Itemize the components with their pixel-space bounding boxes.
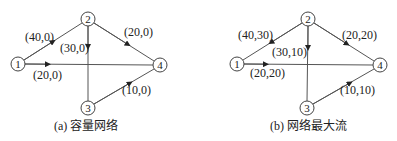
node-b-2-label: 2 [301,12,315,26]
edge-b-3-4-label: (10,10) [340,84,375,96]
edge-b-2-4-label: (20,20) [342,29,377,41]
node-a-3-label: 3 [81,101,95,115]
edge-a-1-2-label: (40,0) [25,31,54,43]
node-b-4-label: 4 [373,58,387,72]
edge-a-1-4-label: (20,0) [33,69,62,81]
node-a-2-label: 2 [81,12,95,26]
edge-a-3-4-label: (10,0) [122,84,151,96]
node-a-1-label: 1 [11,57,25,71]
node-a-4-label: 4 [153,58,167,72]
edge-b-1-2-arrow [271,23,302,43]
edge-b-1-4-label: (20,20) [250,67,285,79]
edge-a-2-4-arrow [94,23,128,45]
caption-b: (b) 网络最大流 [270,119,347,133]
node-b-3-label: 3 [300,101,314,115]
edge-a-2-4-label: (20,0) [124,26,153,38]
figure: 1 2 3 4 (40,0) (20,0) (30,0) (20,0) (10,… [0,0,397,141]
node-b-1-label: 1 [230,57,244,71]
caption-a: (a) 容量网络 [54,119,118,133]
edge-b-1-2-label: (40,30) [238,29,273,41]
edge-a-1-2-arrow [24,42,53,61]
node-circles [11,12,387,115]
edge-a-2-3-label: (30,0) [60,42,89,54]
edge-b-2-3-label: (30,10) [272,46,307,58]
